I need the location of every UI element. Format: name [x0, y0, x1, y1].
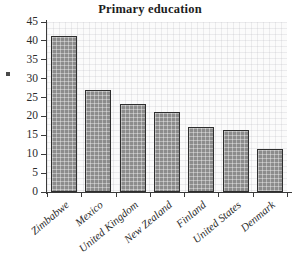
bar	[85, 90, 111, 192]
y-axis-tick-label: 0	[32, 186, 38, 198]
bar	[223, 130, 249, 192]
y-axis-tick-label: 35	[27, 54, 39, 66]
y-axis-tick	[41, 154, 47, 155]
bar	[154, 112, 180, 192]
y-axis-tick-label: 10	[27, 148, 39, 160]
y-axis-tick-label: 30	[27, 73, 39, 85]
y-axis-tick-label: 15	[27, 129, 39, 141]
y-axis-tick	[41, 135, 47, 136]
y-axis-tick-label: 25	[27, 92, 39, 104]
y-axis-tick	[41, 59, 47, 60]
y-axis-tick	[41, 97, 47, 98]
x-axis-tick	[81, 192, 82, 197]
y-axis-tick-label: 20	[27, 110, 39, 122]
x-axis-tick	[116, 192, 117, 197]
x-axis-tick	[218, 192, 219, 197]
y-axis-tick-label: 45	[27, 16, 39, 28]
x-axis-tick	[184, 192, 185, 197]
y-axis-line	[46, 20, 47, 194]
bar	[188, 127, 214, 192]
bar	[120, 104, 146, 192]
bar	[257, 149, 283, 192]
y-axis-label-clipped	[6, 72, 10, 76]
y-axis-tick-label: 40	[27, 35, 39, 47]
x-axis-tick	[47, 192, 48, 197]
x-axis-line	[41, 192, 292, 193]
bar-chart: Primary education 051015202530354045 Zim…	[0, 0, 300, 275]
bar	[51, 36, 77, 192]
y-axis-tick-label: 5	[32, 167, 38, 179]
y-axis-tick	[41, 22, 47, 23]
x-axis-tick	[253, 192, 254, 197]
y-axis-tick	[41, 116, 47, 117]
y-axis-tick	[41, 78, 47, 79]
y-axis-tick	[41, 173, 47, 174]
x-axis-tick	[150, 192, 151, 197]
x-axis-tick	[287, 192, 288, 197]
y-axis-tick	[41, 40, 47, 41]
chart-title: Primary education	[0, 2, 300, 17]
